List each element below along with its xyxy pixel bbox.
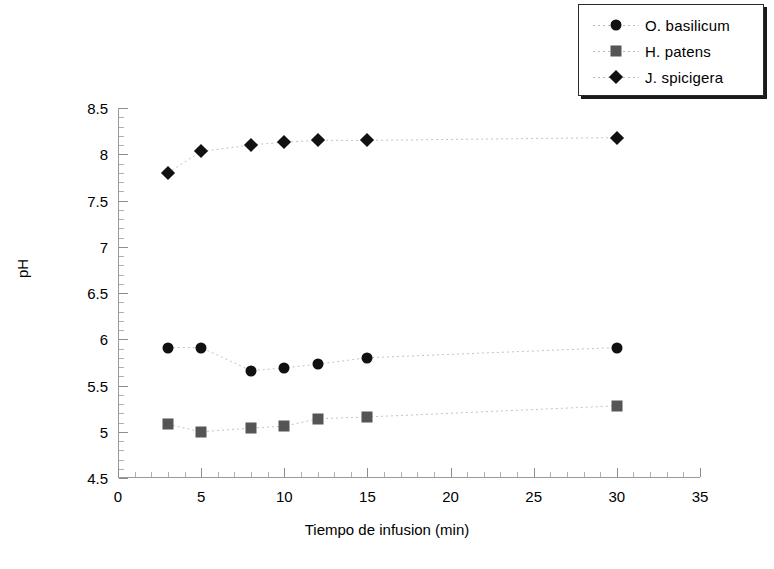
data-point-square <box>312 413 323 424</box>
y-tick-label: 6.5 <box>87 285 108 302</box>
data-point-square <box>196 426 207 437</box>
legend-item-h-patens: H. patens <box>579 38 763 64</box>
y-axis-title: pH <box>14 259 31 278</box>
data-point-square <box>611 400 622 411</box>
legend-label-h-patens: H. patens <box>639 43 711 60</box>
data-point-circle <box>196 342 207 353</box>
data-point-circle <box>246 365 257 376</box>
y-tick-label: 5 <box>100 423 108 440</box>
y-tick-label: 7.5 <box>87 192 108 209</box>
x-tick <box>700 468 701 477</box>
chart-legend: O. basilicum H. patens J. spicigera <box>578 4 764 96</box>
y-tick-label: 7 <box>100 238 108 255</box>
legend-item-j-spicigera: J. spicigera <box>579 64 763 90</box>
x-tick-label: 25 <box>525 488 542 505</box>
series-line-circle <box>168 348 617 371</box>
data-point-square <box>362 411 373 422</box>
x-tick-label: 30 <box>609 488 626 505</box>
x-axis-title: Tiempo de infusion (min) <box>0 521 774 538</box>
y-tick <box>119 478 128 479</box>
y-tick-label: 8 <box>100 146 108 163</box>
data-point-square <box>246 423 257 434</box>
x-tick-label: 10 <box>276 488 293 505</box>
y-tick-label: 4.5 <box>87 470 108 487</box>
legend-label-o-basilicum: O. basilicum <box>639 17 730 34</box>
legend-label-j-spicigera: J. spicigera <box>639 69 723 86</box>
series-line-square <box>168 406 617 432</box>
data-point-square <box>279 421 290 432</box>
x-tick-label: 0 <box>114 488 122 505</box>
data-point-circle <box>162 342 173 353</box>
data-point-circle <box>362 352 373 363</box>
x-tick-label: 15 <box>359 488 376 505</box>
y-tick-label: 6 <box>100 331 108 348</box>
legend-marker-circle-icon <box>593 19 639 31</box>
legend-item-o-basilicum: O. basilicum <box>579 12 763 38</box>
data-point-square <box>162 419 173 430</box>
data-point-circle <box>611 342 622 353</box>
x-tick-label: 35 <box>692 488 709 505</box>
x-tick-label: 5 <box>197 488 205 505</box>
y-tick-label: 5.5 <box>87 377 108 394</box>
x-tick-label: 20 <box>442 488 459 505</box>
legend-marker-square-icon <box>593 45 639 57</box>
plot-area: 4.555.566.577.588.5 05101520253035 <box>118 108 700 478</box>
data-point-circle <box>279 362 290 373</box>
chart-figure: O. basilicum H. patens J. spicigera pH T… <box>0 0 774 569</box>
data-point-circle <box>312 359 323 370</box>
legend-marker-diamond-icon <box>593 71 639 83</box>
series-line-diamond <box>168 138 617 173</box>
series-lines <box>118 108 700 478</box>
y-tick-label: 8.5 <box>87 100 108 117</box>
